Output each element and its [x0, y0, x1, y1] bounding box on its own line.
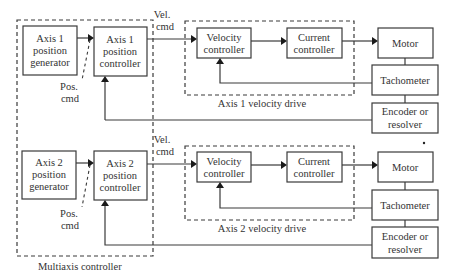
axis-2-current-controller-line2: controller	[294, 168, 335, 179]
arrow-head-icon	[216, 58, 224, 64]
axis-2-current-controller-line1: Current	[298, 156, 330, 167]
axis-2-generator-line3: generator	[29, 181, 69, 192]
axis-2-generator-line2: position	[32, 169, 67, 180]
axis-2-velocity-controller-line1: Velocity	[207, 156, 243, 167]
axis-1-velocity-controller-line2: controller	[204, 44, 245, 55]
axis-1-controller-line3: controller	[100, 58, 141, 69]
axis-2-controller-line1: Axis 2	[106, 158, 134, 169]
axis-1-pos-cmd-line2: cmd	[61, 93, 80, 104]
axis-2-controller-line2: position	[103, 170, 138, 181]
axis-1-vel-cmd-line2: cmd	[156, 21, 175, 32]
axis-2-pos-cmd-leader	[82, 165, 90, 207]
axis-2-velocity-controller-line2: controller	[204, 168, 245, 179]
axis-1-tach-feedback-line	[220, 64, 372, 83]
axis-1-generator-line2: position	[33, 45, 68, 56]
axis-1-pos-cmd-line1: Pos.	[60, 81, 78, 92]
axis-1-current-controller-line1: Current	[298, 32, 330, 43]
axis-1-group: Axis 1 position generator Pos. cmd Axis …	[23, 9, 438, 133]
axis-1-generator-line3: generator	[30, 57, 70, 68]
arrow-head-icon	[88, 34, 94, 42]
axis-1-controller-line1: Axis 1	[106, 34, 134, 45]
axis-2-pos-cmd-line1: Pos.	[60, 208, 78, 219]
arrow-head-icon	[281, 161, 287, 169]
axis-2-group: Axis 2 position generator Pos. cmd Axis …	[22, 134, 438, 258]
axis-1-velocity-controller-line1: Velocity	[207, 32, 243, 43]
arrow-head-icon	[372, 161, 378, 169]
axis-1-generator-line1: Axis 1	[36, 33, 64, 44]
axis-2-encoder-line1: Encoder or	[382, 231, 429, 242]
stray-dot	[423, 142, 425, 144]
axis-1-motor-label: Motor	[392, 38, 419, 49]
axis-2-velocity-drive-label: Axis 2 velocity drive	[218, 223, 307, 234]
axis-1-vel-cmd-line1: Vel.	[154, 9, 171, 20]
axis-2-tach-feedback-line	[220, 188, 372, 208]
multiaxis-control-diagram: Multiaxis controller Axis 1 position gen…	[0, 0, 453, 279]
arrow-head-icon	[191, 160, 197, 168]
arrow-head-icon	[216, 182, 224, 188]
axis-2-controller-line3: controller	[100, 182, 141, 193]
axis-2-tachometer-label: Tachometer	[380, 200, 430, 211]
multiaxis-controller-label: Multiaxis controller	[38, 261, 122, 272]
arrow-head-icon	[372, 37, 378, 45]
axis-1-controller-line2: position	[103, 46, 138, 57]
arrow-head-icon	[191, 35, 197, 43]
arrow-head-icon	[88, 159, 94, 167]
axis-1-tachometer-label: Tachometer	[380, 75, 430, 86]
axis-2-encoder-line2: resolver	[388, 244, 422, 255]
axis-2-vel-cmd-line2: cmd	[156, 146, 175, 157]
arrow-head-icon	[281, 37, 287, 45]
axis-1-pos-cmd-leader	[82, 40, 90, 80]
axis-1-current-controller-line2: controller	[294, 44, 335, 55]
axis-1-encoder-line1: Encoder or	[382, 106, 429, 117]
axis-1-velocity-drive-label: Axis 1 velocity drive	[218, 98, 307, 109]
axis-2-motor-label: Motor	[392, 162, 419, 173]
arrow-head-icon	[101, 76, 109, 82]
arrow-head-icon	[101, 200, 109, 206]
axis-2-vel-cmd-line1: Vel.	[154, 134, 171, 145]
axis-2-pos-cmd-line2: cmd	[61, 220, 80, 231]
axis-1-encoder-line2: resolver	[388, 119, 422, 130]
axis-2-generator-line1: Axis 2	[35, 157, 63, 168]
